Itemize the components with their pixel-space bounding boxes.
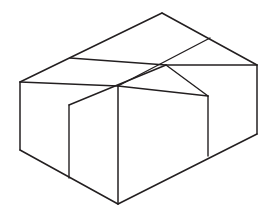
front-right-face [118,65,257,204]
front-right-face-group [118,65,257,204]
figure-root [0,0,275,222]
cube-block-drawing [0,0,275,222]
